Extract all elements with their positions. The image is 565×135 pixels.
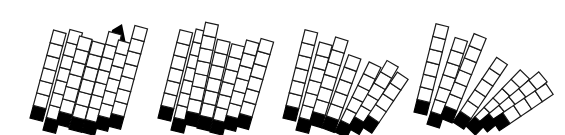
block bbox=[177, 30, 193, 46]
block bbox=[302, 30, 318, 46]
block bbox=[203, 22, 218, 37]
block bbox=[433, 24, 449, 40]
block bbox=[257, 39, 273, 55]
panel-group bbox=[30, 22, 553, 135]
panel-3 bbox=[283, 30, 408, 135]
block bbox=[332, 37, 348, 53]
panel-4 bbox=[414, 24, 553, 135]
panel-1 bbox=[30, 24, 147, 135]
panel-2 bbox=[158, 22, 274, 135]
block bbox=[132, 26, 148, 42]
block bbox=[50, 30, 66, 46]
block bbox=[215, 39, 231, 55]
block-toppling-diagram bbox=[0, 0, 565, 135]
